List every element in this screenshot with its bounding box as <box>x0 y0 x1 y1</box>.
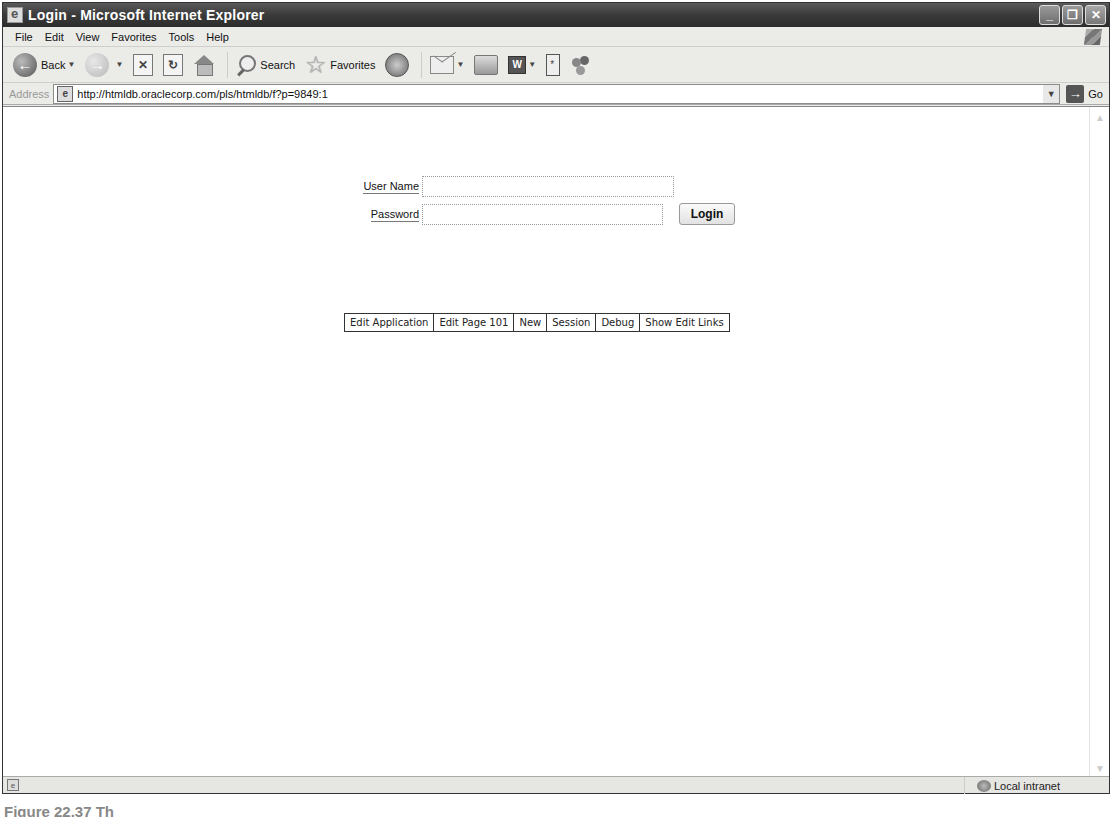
menu-file[interactable]: File <box>15 31 33 43</box>
search-button[interactable]: Search <box>236 55 295 75</box>
standard-toolbar: ← Back ▼ → ▼ ✕ ↻ Search ☆ Favorites <box>3 47 1109 83</box>
address-label: Address <box>9 88 49 100</box>
windows-logo-icon <box>1084 29 1102 45</box>
menu-tools[interactable]: Tools <box>169 31 195 43</box>
back-label: Back <box>41 59 65 71</box>
menu-view[interactable]: View <box>76 31 100 43</box>
password-label: Password <box>353 208 422 220</box>
page-content: User Name Password Login Edit Applicatio… <box>3 106 1109 778</box>
window-title: Login - Microsoft Internet Explorer <box>28 7 264 23</box>
toolbar-separator <box>421 52 422 78</box>
go-label: Go <box>1088 88 1103 100</box>
back-dropdown-icon[interactable]: ▼ <box>67 60 75 69</box>
favorites-button[interactable]: ☆ Favorites <box>305 53 375 77</box>
word-icon: W <box>508 56 526 74</box>
toolbar-separator <box>227 52 228 78</box>
scroll-up-icon[interactable]: ▲ <box>1092 109 1108 125</box>
status-page-icon: e <box>7 779 19 791</box>
username-input[interactable] <box>422 176 674 197</box>
discuss-button[interactable] <box>546 54 560 76</box>
window-controls: _ ❐ ✕ <box>1039 5 1106 25</box>
username-label: User Name <box>353 180 422 192</box>
edit-page-link[interactable]: Edit Page 101 <box>434 314 514 331</box>
go-arrow-icon: → <box>1066 85 1084 103</box>
forward-button[interactable]: → ▼ <box>85 53 123 77</box>
security-zone: Local intranet <box>964 777 1089 794</box>
session-link[interactable]: Session <box>547 314 596 331</box>
search-icon <box>236 55 256 75</box>
password-row: Password Login <box>353 202 735 226</box>
restore-button[interactable]: ❐ <box>1062 5 1083 25</box>
edit-application-link[interactable]: Edit Application <box>345 314 434 331</box>
ie-app-icon <box>7 7 23 23</box>
mail-icon <box>430 56 454 74</box>
username-row: User Name <box>353 174 735 198</box>
menu-favorites[interactable]: Favorites <box>111 31 156 43</box>
intranet-icon <box>977 780 991 792</box>
home-icon <box>193 55 215 75</box>
debug-link[interactable]: Debug <box>596 314 640 331</box>
menu-edit[interactable]: Edit <box>45 31 64 43</box>
page-icon: e <box>57 86 73 102</box>
edit-dropdown-icon[interactable]: ▼ <box>528 60 536 69</box>
history-icon <box>385 53 409 77</box>
back-icon: ← <box>13 53 37 77</box>
go-button[interactable]: → Go <box>1066 85 1103 103</box>
title-bar: Login - Microsoft Internet Explorer _ ❐ … <box>3 3 1109 27</box>
minimize-button[interactable]: _ <box>1039 5 1060 25</box>
messenger-icon <box>570 55 594 75</box>
mail-dropdown-icon[interactable]: ▼ <box>456 60 464 69</box>
menu-bar: File Edit View Favorites Tools Help <box>3 27 1109 47</box>
messenger-button[interactable] <box>570 55 594 75</box>
edit-word-button[interactable]: W ▼ <box>508 56 536 74</box>
forward-dropdown-icon[interactable]: ▼ <box>115 60 123 69</box>
forward-icon: → <box>85 53 109 77</box>
address-url[interactable]: http://htmldb.oraclecorp.com/pls/htmldb/… <box>77 88 327 100</box>
vertical-scrollbar[interactable]: ▲ ▼ <box>1089 107 1109 778</box>
home-button[interactable] <box>193 55 215 75</box>
menu-help[interactable]: Help <box>206 31 229 43</box>
print-button[interactable] <box>474 55 498 75</box>
figure-caption: Figure 22.37 Th <box>4 800 114 817</box>
print-icon <box>474 55 498 75</box>
search-label: Search <box>260 59 295 71</box>
new-link[interactable]: New <box>514 314 547 331</box>
refresh-button[interactable]: ↻ <box>163 54 183 76</box>
stop-button[interactable]: ✕ <box>133 54 153 76</box>
address-dropdown-icon[interactable]: ▼ <box>1043 85 1059 103</box>
mail-button[interactable]: ▼ <box>430 56 464 74</box>
address-bar: Address e http://htmldb.oraclecorp.com/p… <box>3 83 1109 105</box>
history-button[interactable] <box>385 53 409 77</box>
favorites-star-icon: ☆ <box>305 53 327 77</box>
close-button[interactable]: ✕ <box>1085 5 1106 25</box>
refresh-icon: ↻ <box>163 54 183 76</box>
login-form: User Name Password Login <box>353 174 735 230</box>
favorites-label: Favorites <box>330 59 375 71</box>
zone-label: Local intranet <box>994 780 1060 792</box>
password-input[interactable] <box>422 204 663 225</box>
show-edit-links-link[interactable]: Show Edit Links <box>640 314 728 331</box>
status-bar: e Local intranet <box>3 776 1109 793</box>
back-button[interactable]: ← Back ▼ <box>13 53 75 77</box>
scroll-down-icon[interactable]: ▼ <box>1092 760 1108 776</box>
developer-toolbar: Edit Application Edit Page 101 New Sessi… <box>344 313 730 332</box>
address-input[interactable]: e http://htmldb.oraclecorp.com/pls/htmld… <box>53 84 1060 104</box>
discuss-icon <box>546 54 560 76</box>
login-button[interactable]: Login <box>679 203 735 225</box>
browser-window: Login - Microsoft Internet Explorer _ ❐ … <box>2 2 1110 794</box>
stop-icon: ✕ <box>133 54 153 76</box>
